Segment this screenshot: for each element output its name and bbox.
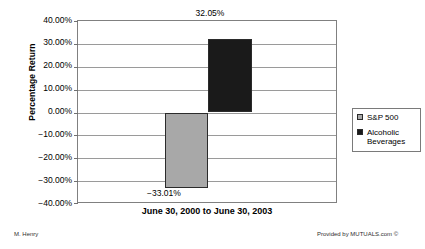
x-axis-title: June 30, 2000 to June 30, 2003 <box>77 206 337 216</box>
legend-label: S&P 500 <box>367 113 398 123</box>
bar-sp500[interactable] <box>165 113 208 189</box>
legend-item-sp500[interactable]: S&P 500 <box>357 113 417 123</box>
y-tick-label: 20.00% <box>20 61 72 70</box>
provider-credit: Provided by MUTUALS.com © <box>317 231 398 237</box>
y-tick-label: −10.00% <box>20 130 72 139</box>
gridline <box>78 44 336 45</box>
y-tick-mark <box>74 67 78 68</box>
y-tick-mark <box>74 44 78 45</box>
y-tick-mark <box>74 90 78 91</box>
y-tick-mark <box>74 181 78 182</box>
legend-swatch-icon <box>357 114 363 120</box>
legend-label: Alcoholic Beverages <box>367 128 417 147</box>
chart-figure: Percentage Return 40.00% 30.00% 20.00% 1… <box>0 0 425 249</box>
y-axis-tick-labels: 40.00% 30.00% 20.00% 10.00% 0.00% −10.00… <box>20 0 72 249</box>
y-tick-label: 40.00% <box>20 16 72 25</box>
y-tick-mark <box>74 158 78 159</box>
y-tick-mark <box>74 203 78 204</box>
y-tick-mark <box>74 113 78 114</box>
y-tick-label: −30.00% <box>20 176 72 185</box>
y-tick-mark <box>74 135 78 136</box>
y-tick-label: −40.00% <box>20 199 72 208</box>
bar-alcoholic-beverages[interactable] <box>208 39 252 112</box>
gridline <box>78 67 336 68</box>
y-tick-label: 30.00% <box>20 38 72 47</box>
legend-item-alcoholic-beverages[interactable]: Alcoholic Beverages <box>357 128 417 147</box>
y-tick-mark <box>74 21 78 22</box>
plot-area <box>77 20 337 203</box>
data-label-sp500: −33.01% <box>124 188 204 198</box>
data-label-alcoholic-beverages: 32.05% <box>170 8 250 18</box>
gridline <box>78 90 336 91</box>
legend-swatch-icon <box>357 129 363 135</box>
author-credit: M. Henry <box>14 231 38 237</box>
chart-legend: S&P 500 Alcoholic Beverages <box>352 108 421 152</box>
y-tick-label: 0.00% <box>20 107 72 116</box>
y-tick-label: −20.00% <box>20 153 72 162</box>
y-tick-label: 10.00% <box>20 84 72 93</box>
